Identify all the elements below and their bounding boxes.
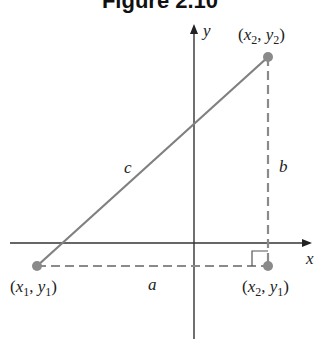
point-label-x1-y1: (x1, y1)	[10, 277, 57, 299]
hypotenuse-segment	[37, 57, 268, 266]
side-b-label: b	[279, 157, 288, 176]
distance-diagram: y x c b a (x2, y2) (x1, y1) (x2, y1)	[0, 0, 320, 339]
x-axis-label: x	[305, 249, 314, 268]
y-axis-label: y	[201, 21, 211, 40]
side-c-label: c	[124, 158, 132, 177]
side-a-label: a	[148, 275, 157, 294]
point-label-x2-y1: (x2, y1)	[242, 277, 289, 299]
point-label-x2-y2: (x2, y2)	[238, 25, 285, 47]
point-x2-y2	[263, 52, 273, 62]
point-x2-y1	[263, 261, 273, 271]
point-x1-y1	[32, 261, 42, 271]
